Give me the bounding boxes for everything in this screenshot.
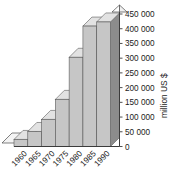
y-tick-label: 0 <box>125 143 130 152</box>
bar <box>97 13 120 147</box>
y-tick-label: 50 000 <box>125 128 150 137</box>
bar-chart: 050 000100 000150 000200 000250 000300 0… <box>0 0 177 184</box>
y-axis-title: million US $ <box>159 73 169 118</box>
y-tick-label: 250 000 <box>125 69 155 78</box>
y-tick-label: 400 000 <box>125 25 155 34</box>
y-tick-label: 100 000 <box>125 113 155 122</box>
y-tick-label: 450 000 <box>125 10 155 19</box>
y-tick-label: 150 000 <box>125 98 155 107</box>
y-tick-label: 350 000 <box>125 39 155 48</box>
y-tick-label: 300 000 <box>125 54 155 63</box>
y-tick-label: 200 000 <box>125 84 155 93</box>
chart-svg: 050 000100 000150 000200 000250 000300 0… <box>0 0 177 184</box>
